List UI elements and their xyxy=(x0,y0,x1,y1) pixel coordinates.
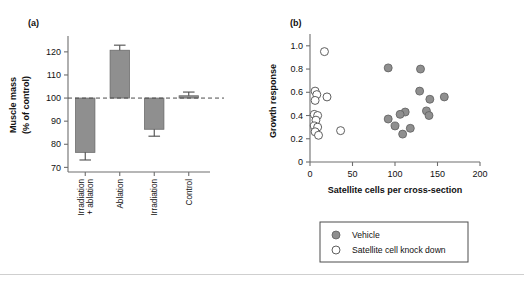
panel-b-y-tick-label: 0.4 xyxy=(290,111,303,121)
panel-b-data-point xyxy=(440,93,448,101)
panel-b-data-point xyxy=(416,87,424,95)
panel-b-data-point xyxy=(337,127,345,135)
panel-b-legend: VehicleSatellite cell knock down xyxy=(320,222,468,262)
panel-b-series-vehicle xyxy=(384,64,448,138)
panel-a-y-tick-label: 110 xyxy=(47,70,61,80)
panel-b-data-point xyxy=(391,122,399,130)
panel-a-y-tick-label: 100 xyxy=(46,93,61,103)
panel-b-data-point xyxy=(406,124,414,132)
panel-a-y-tick-label: 80 xyxy=(51,139,61,149)
page-bottom-rule xyxy=(0,274,524,275)
panel-b-y-tick-label: 0 xyxy=(298,157,303,167)
panel-a-bar xyxy=(145,98,164,129)
panel-b-data-point xyxy=(384,64,392,72)
panel-b-x-tick-label: 200 xyxy=(472,169,487,179)
panel-a-category-label: Ablation xyxy=(116,179,125,209)
panel-a-error-bar xyxy=(183,92,195,96)
panel-a-category-label-line: Control xyxy=(185,179,194,206)
panel-b-y-axis-title-text: Growth response xyxy=(268,64,278,138)
panel-b-x-tick-label: 50 xyxy=(347,169,357,179)
figure-container: (a) (b) 708090100110120Muscle mass(% of … xyxy=(0,0,524,284)
panel-b-y-tick-label: 0.8 xyxy=(290,64,303,74)
panel-a-error-bar xyxy=(114,45,126,50)
panel-a-error-bar xyxy=(79,152,91,160)
panel-b-data-point xyxy=(396,110,404,118)
panel-b-y-tick-label: 1.0 xyxy=(290,41,303,51)
panel-b-x-tick-label: 0 xyxy=(307,169,312,179)
panel-b-x-tick-label: 100 xyxy=(387,169,402,179)
panel-b-x-tick-label: 150 xyxy=(430,169,445,179)
panel-a-y-tick-label: 90 xyxy=(51,116,61,126)
legend-label-vehicle: Vehicle xyxy=(352,230,380,240)
panel-b-scatter-chart: 00.20.40.60.81.0050100150200Satellite ce… xyxy=(262,0,524,284)
panel-b-x-axis-title: Satellite cells per cross-section xyxy=(328,185,463,195)
legend-marker-vehicle xyxy=(332,231,340,239)
panel-a-y-axis-title: Muscle mass(% of control) xyxy=(8,76,31,134)
panel-b-data-point xyxy=(323,93,331,101)
panel-a-y-axis-title-line1: Muscle mass xyxy=(8,77,18,133)
panel-a-category-label: Irradiation+ ablation xyxy=(77,179,95,216)
legend-label-knockdown: Satellite cell knock down xyxy=(352,245,446,255)
panel-a-error-bar xyxy=(148,129,160,136)
panel-b-data-point xyxy=(426,95,434,103)
legend-marker-knockdown xyxy=(332,246,340,254)
panel-a-category-label: Irradiation xyxy=(150,179,159,216)
panel-a-y-axis-title-line2: (% of control) xyxy=(21,76,31,134)
panel-b-data-point xyxy=(315,131,323,139)
panel-a-category-label: Control xyxy=(185,179,194,206)
panel-b-data-point xyxy=(417,65,425,73)
panel-a-bar xyxy=(76,98,95,152)
panel-b-y-tick-label: 0.6 xyxy=(290,87,303,97)
panel-b-series-knockdown xyxy=(310,48,344,140)
panel-a-category-label-line: Ablation xyxy=(116,179,125,209)
panel-b-y-axis-title: Growth response xyxy=(268,64,278,138)
panel-b-data-point xyxy=(384,115,392,123)
panel-a-y-tick-label: 70 xyxy=(51,163,61,173)
panel-b-data-point xyxy=(425,112,433,120)
panel-a-bar xyxy=(110,50,129,98)
panel-a-category-label-line: Irradiation xyxy=(150,179,159,216)
panel-b-y-tick-label: 0.2 xyxy=(290,134,303,144)
panel-b-data-point xyxy=(311,96,319,104)
panel-a-category-label-line: Irradiation xyxy=(77,179,86,216)
panel-a-bar-chart: 708090100110120Muscle mass(% of control)… xyxy=(0,0,262,284)
panel-b-data-point xyxy=(399,130,407,138)
panel-a-category-label-line: + ablation xyxy=(86,179,95,215)
panel-b-data-point xyxy=(320,48,328,56)
legend-box xyxy=(320,222,468,262)
panel-a-y-tick-label: 120 xyxy=(46,47,61,57)
